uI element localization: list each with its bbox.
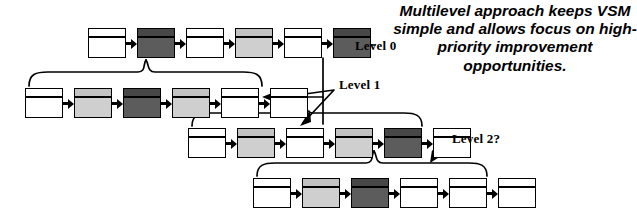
brace-level0-to-level1-right — [146, 60, 262, 86]
process-box-2-1[interactable] — [188, 128, 226, 158]
process-box-1-6[interactable] — [270, 88, 308, 118]
process-box-0-1[interactable] — [88, 28, 126, 58]
box-header-band — [75, 89, 111, 96]
flow-arrow-icon — [224, 38, 235, 48]
value-stream-row-level-3 — [253, 178, 536, 208]
value-stream-row-level-2 — [188, 128, 471, 158]
process-box-2-3[interactable] — [286, 128, 324, 158]
value-stream-row-level-0 — [88, 28, 371, 58]
flow-arrow-icon — [422, 138, 433, 148]
process-box-1-3[interactable] — [123, 88, 161, 118]
box-header-band — [124, 89, 160, 96]
flow-arrow-icon — [340, 188, 351, 198]
flow-arrow-icon — [275, 138, 286, 148]
box-header-band — [303, 179, 339, 186]
flow-arrow-icon — [373, 138, 384, 148]
box-header-band — [352, 179, 388, 186]
brace-level0-to-level1-left — [29, 60, 146, 86]
level-0-label: Level 0 — [355, 38, 396, 54]
value-stream-row-level-1 — [25, 88, 308, 118]
callout-text: Multilevel approach keeps VSM simple and… — [393, 2, 637, 75]
process-box-0-2[interactable] — [137, 28, 175, 58]
box-header-band — [450, 179, 486, 186]
process-box-3-4[interactable] — [400, 178, 438, 208]
box-header-band — [236, 29, 272, 36]
box-header-band — [271, 89, 307, 96]
flow-arrow-icon — [322, 38, 333, 48]
process-box-3-3[interactable] — [351, 178, 389, 208]
brace-level1-to-level2-right — [304, 101, 422, 126]
process-box-2-2[interactable] — [237, 128, 275, 158]
process-box-0-3[interactable] — [186, 28, 224, 58]
process-box-3-1[interactable] — [253, 178, 291, 208]
process-box-2-5[interactable] — [384, 128, 422, 158]
flow-arrow-icon — [291, 188, 302, 198]
box-header-band — [499, 179, 535, 186]
process-box-1-4[interactable] — [172, 88, 210, 118]
flow-arrow-icon — [210, 98, 221, 108]
flow-arrow-icon — [389, 188, 400, 198]
box-header-band — [222, 89, 258, 96]
flow-arrow-icon — [438, 188, 449, 198]
box-header-band — [89, 29, 125, 36]
box-header-band — [189, 129, 225, 136]
box-header-band — [336, 129, 372, 136]
process-box-1-2[interactable] — [74, 88, 112, 118]
flow-arrow-icon — [273, 38, 284, 48]
process-box-0-4[interactable] — [235, 28, 273, 58]
flow-arrow-icon — [487, 188, 498, 198]
box-header-band — [187, 29, 223, 36]
box-header-band — [285, 29, 321, 36]
process-box-3-2[interactable] — [302, 178, 340, 208]
box-header-band — [138, 29, 174, 36]
vsm-multilevel-diagram: Level 0 Level 1 Level 2? Multilevel appr… — [0, 0, 637, 218]
flow-arrow-icon — [259, 98, 270, 108]
flow-arrow-icon — [126, 38, 137, 48]
flow-arrow-icon — [175, 38, 186, 48]
box-header-band — [385, 129, 421, 136]
flow-arrow-icon — [63, 98, 74, 108]
box-header-band — [334, 29, 370, 36]
process-box-1-5[interactable] — [221, 88, 259, 118]
box-header-band — [173, 89, 209, 96]
box-header-band — [401, 179, 437, 186]
process-box-1-1[interactable] — [25, 88, 63, 118]
box-header-band — [254, 179, 290, 186]
level-2-label: Level 2? — [452, 131, 500, 147]
box-header-band — [26, 89, 62, 96]
flow-arrow-icon — [112, 98, 123, 108]
flow-arrow-icon — [161, 98, 172, 108]
flow-arrow-icon — [324, 138, 335, 148]
level-1-label: Level 1 — [339, 77, 380, 93]
process-box-0-5[interactable] — [284, 28, 322, 58]
box-header-band — [287, 129, 323, 136]
process-box-3-6[interactable] — [498, 178, 536, 208]
process-box-3-5[interactable] — [449, 178, 487, 208]
box-header-band — [238, 129, 274, 136]
process-box-2-4[interactable] — [335, 128, 373, 158]
flow-arrow-icon — [226, 138, 237, 148]
